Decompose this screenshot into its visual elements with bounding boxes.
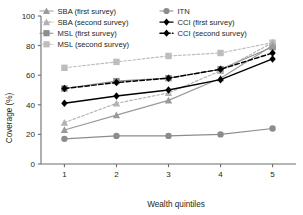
legend-label: SBA (second survey) — [58, 18, 129, 27]
y-axis-tick-label: 100 — [22, 12, 36, 21]
data-point-marker — [269, 125, 275, 131]
data-point-marker — [165, 53, 171, 59]
chart-figure: 020406080100 12345 SBA (first survey)SBA… — [0, 0, 303, 215]
legend-label: SBA (first survey) — [58, 7, 117, 16]
legend-label: CCI (second survey) — [178, 29, 248, 38]
x-axis-title: Wealth quintiles — [147, 200, 205, 209]
data-point-marker — [61, 136, 67, 142]
data-point-marker — [217, 131, 223, 137]
data-point-marker — [163, 8, 169, 14]
legend-label: MSL (second survey) — [58, 40, 130, 49]
legend-label: ITN — [178, 7, 190, 16]
x-axis-tick-label: 5 — [270, 170, 275, 179]
coverage-by-wealth-quintile-chart: 020406080100 12345 SBA (first survey)SBA… — [0, 0, 303, 215]
y-axis-title: Coverage (%) — [5, 92, 14, 143]
data-point-marker — [217, 50, 223, 56]
data-point-marker — [43, 30, 49, 36]
legend-label: MSL (first survey) — [58, 29, 118, 38]
data-point-marker — [165, 133, 171, 139]
y-axis-tick-label: 40 — [26, 101, 35, 110]
x-axis-tick-label: 2 — [114, 170, 119, 179]
data-point-marker — [61, 65, 67, 71]
x-axis-tick-label: 3 — [166, 170, 171, 179]
data-point-marker — [113, 133, 119, 139]
y-axis-tick-label: 0 — [31, 160, 36, 169]
x-axis-tick-label: 1 — [62, 170, 67, 179]
x-axis-tick-label: 4 — [218, 170, 223, 179]
y-axis-tick-label: 60 — [26, 71, 35, 80]
legend-label: CCI (first survey) — [178, 18, 235, 27]
data-point-marker — [43, 41, 49, 47]
data-point-marker — [113, 59, 119, 65]
y-axis-tick-label: 20 — [26, 130, 35, 139]
y-axis-tick-label: 80 — [26, 42, 35, 51]
